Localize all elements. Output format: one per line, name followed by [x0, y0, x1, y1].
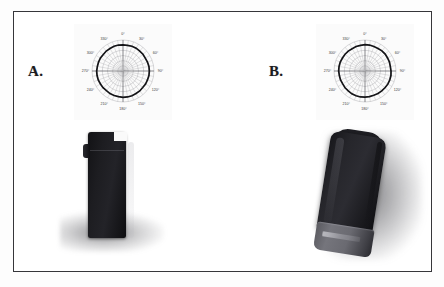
- polar-tick-180: 180°: [119, 107, 127, 111]
- polar-tick-0: 0°: [363, 32, 367, 36]
- polar-tick-0: 0°: [121, 32, 125, 36]
- polar-tick-30: 30°: [381, 37, 387, 41]
- polar-plot-b-svg: 0°30°60°90°120°150°180°210°240°270°300°3…: [316, 24, 414, 120]
- polar-tick-300: 300°: [87, 51, 95, 55]
- polar-tick-60: 60°: [395, 51, 401, 55]
- polar-tick-150: 150°: [380, 102, 388, 106]
- polar-tick-330: 330°: [101, 37, 109, 41]
- panel-label-a: A.: [28, 63, 43, 80]
- device-b-brand-text: [322, 231, 360, 242]
- polar-plot-b: 0°30°60°90°120°150°180°210°240°270°300°3…: [316, 24, 414, 120]
- figure-root: A. 0°30°60°90°120°150°180°210°240°270°30…: [0, 0, 444, 287]
- device-photo-a: [52, 126, 174, 258]
- device-a-body: [88, 132, 126, 238]
- polar-tick-240: 240°: [87, 88, 95, 92]
- polar-plot-a-svg: 0°30°60°90°120°150°180°210°240°270°300°3…: [74, 24, 172, 120]
- polar-tick-300: 300°: [329, 51, 337, 55]
- polar-tick-90: 90°: [158, 69, 164, 73]
- polar-tick-210: 210°: [343, 102, 351, 106]
- polar-tick-30: 30°: [139, 37, 145, 41]
- device-a-highlight: [128, 142, 134, 238]
- device-a-top-notch: [114, 132, 127, 141]
- polar-tick-210: 210°: [101, 102, 109, 106]
- device-a-seam-line: [90, 150, 124, 151]
- polar-tick-270: 270°: [82, 69, 90, 73]
- device-photo-b: [286, 120, 436, 270]
- polar-tick-180: 180°: [361, 107, 369, 111]
- polar-tick-120: 120°: [394, 88, 402, 92]
- polar-tick-270: 270°: [324, 69, 332, 73]
- panel-label-b: B.: [269, 63, 283, 80]
- polar-tick-240: 240°: [329, 88, 337, 92]
- polar-tick-330: 330°: [343, 37, 351, 41]
- polar-tick-150: 150°: [138, 102, 146, 106]
- device-a-side-clip: [83, 144, 90, 158]
- polar-plot-a: 0°30°60°90°120°150°180°210°240°270°300°3…: [74, 24, 172, 120]
- polar-tick-60: 60°: [153, 51, 159, 55]
- polar-tick-90: 90°: [400, 69, 406, 73]
- polar-tick-120: 120°: [152, 88, 160, 92]
